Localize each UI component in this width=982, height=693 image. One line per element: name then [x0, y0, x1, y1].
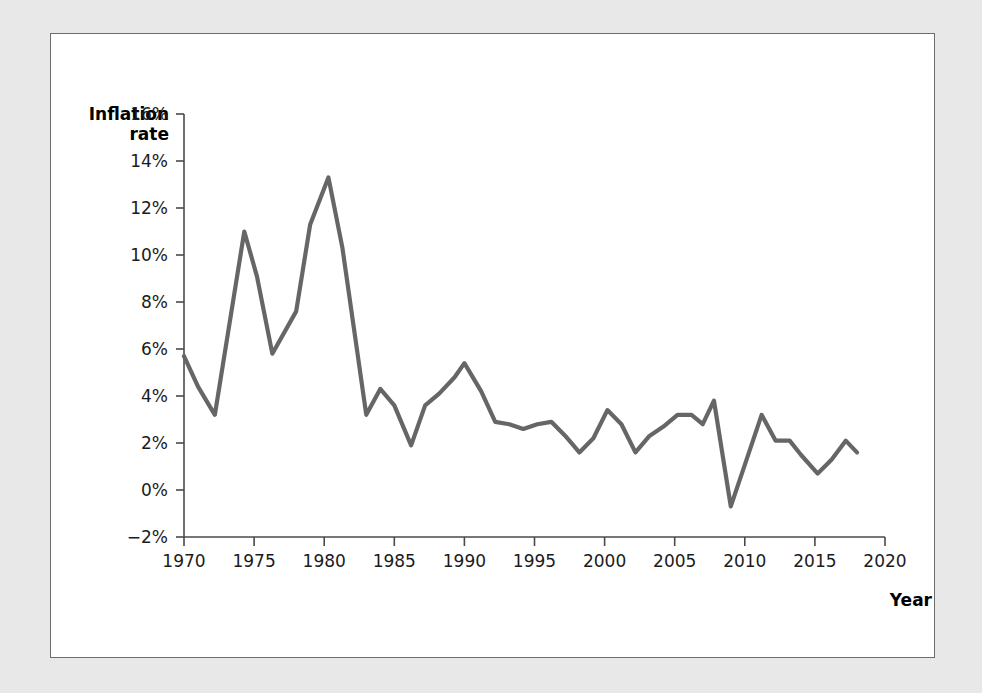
y-tick-label: 8% — [141, 292, 168, 312]
x-tick-label: 2000 — [583, 551, 626, 571]
x-tick-label: 2005 — [653, 551, 696, 571]
x-axis: 1970197519801985199019952000200520102015… — [162, 537, 906, 571]
y-axis-title-line2: rate — [129, 124, 169, 144]
x-tick-label: 1990 — [443, 551, 486, 571]
y-tick-label: 12% — [130, 198, 168, 218]
y-tick-label: 16% — [130, 104, 168, 124]
x-axis-title: Year — [889, 590, 933, 610]
y-tick-label: −2% — [127, 527, 168, 547]
y-tick-label: 0% — [141, 480, 168, 500]
inflation-rate-series-line — [184, 177, 857, 506]
inflation-rate-line-chart: Inflation rate −2%0%2%4%6%8%10%12%14%16%… — [51, 34, 936, 659]
x-tick-label: 2020 — [863, 551, 906, 571]
y-tick-label: 14% — [130, 151, 168, 171]
x-tick-label: 1985 — [373, 551, 416, 571]
x-tick-label: 2015 — [793, 551, 836, 571]
x-tick-label: 1995 — [513, 551, 556, 571]
x-tick-label: 2010 — [723, 551, 766, 571]
y-tick-label: 4% — [141, 386, 168, 406]
x-tick-label: 1980 — [303, 551, 346, 571]
figure-panel: Inflation rate −2%0%2%4%6%8%10%12%14%16%… — [50, 33, 935, 658]
x-tick-label: 1970 — [162, 551, 205, 571]
y-tick-label: 10% — [130, 245, 168, 265]
y-tick-label: 2% — [141, 433, 168, 453]
x-tick-label: 1975 — [232, 551, 275, 571]
y-tick-label: 6% — [141, 339, 168, 359]
y-axis: −2%0%2%4%6%8%10%12%14%16% — [127, 104, 184, 547]
